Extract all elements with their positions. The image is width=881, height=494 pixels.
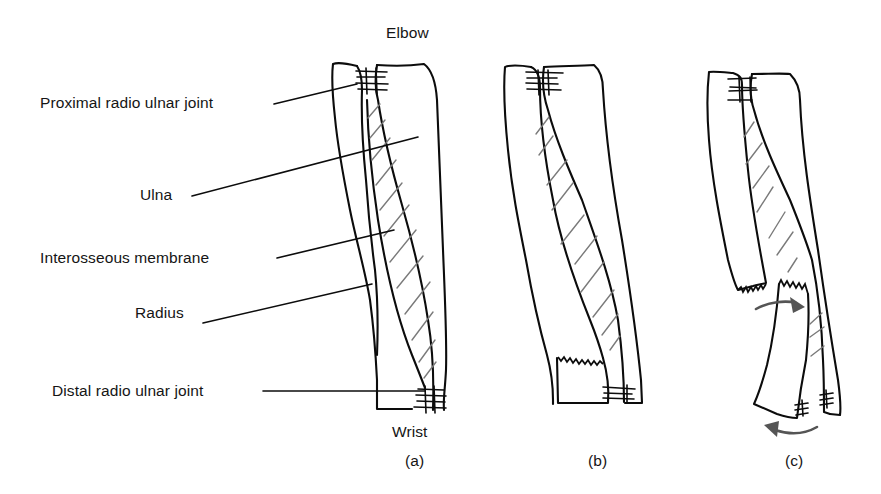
panel-c-drawing [708,72,841,437]
rotation-arrow-lower [775,427,817,433]
leader-proximal [274,84,357,104]
panel-a-drawing [192,63,446,413]
distal-joint-marks-c-ulna [820,390,833,408]
label-elbow: Elbow [386,24,429,42]
panel-b-drawing [504,65,642,404]
label-distal-joint: Distal radio ulnar joint [52,382,203,400]
caption-a: (a) [405,452,424,470]
radius-proximal-fragment-c [708,72,767,290]
label-interosseous-membrane: Interosseous membrane [40,249,209,267]
radius-bone-a [332,63,412,409]
label-ulna: Ulna [140,186,172,204]
caption-b: (b) [588,452,607,470]
leader-membrane [277,230,394,258]
radius-distal-b [557,358,608,403]
ulna-inner-edge-b [543,67,624,402]
ulna-inner-edge-a [376,65,434,410]
label-radius: Radius [135,304,184,322]
arrowhead-upper [790,297,805,313]
diagram-artwork [0,0,881,494]
radius-bone-b [504,66,553,405]
label-wrist: Wrist [392,423,428,441]
membrane-hatching-b [536,117,620,350]
fracture-line-b [558,357,603,365]
radius-inner-edge-b [531,67,603,358]
forearm-diagram: Elbow Proximal radio ulnar joint Ulna In… [0,0,881,494]
distal-joint-marks-a [414,386,446,413]
leader-radius [203,284,372,323]
fracture-line-c-distal [779,280,808,294]
membrane-hatching-c [744,122,824,356]
ulna-bone-c [752,74,840,415]
arrowhead-lower [764,421,779,437]
caption-c: (c) [785,452,803,470]
leader-ulna [192,137,418,196]
label-proximal-joint: Proximal radio ulnar joint [40,94,213,112]
